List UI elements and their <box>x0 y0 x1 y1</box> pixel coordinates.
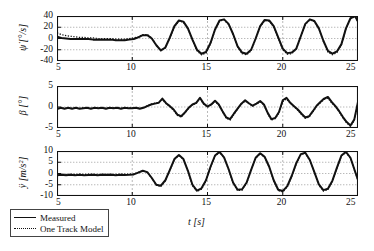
plot-panel-3 <box>57 151 358 196</box>
xtick-label-p1-1: 10 <box>126 62 136 72</box>
legend-entry-1: One Track Model <box>14 223 104 234</box>
legend-label-0: Measured <box>40 213 76 223</box>
ytick-label-p1-0: 40 <box>23 10 53 20</box>
ytick-label-p1-4: -40 <box>23 55 53 65</box>
xtick-label-p2-2: 15 <box>202 129 212 139</box>
ylabel-panel-1: ψ̇ [°/s] <box>17 15 28 59</box>
ytick-label-p3-4: -10 <box>23 190 53 200</box>
plot-panel-1 <box>57 16 358 61</box>
xtick-label-p2-4: 25 <box>346 129 356 139</box>
xtick-label-p1-2: 15 <box>202 62 212 72</box>
legend-entry-0: Measured <box>14 212 104 223</box>
plot-panel-2 <box>57 86 358 128</box>
xtick-label-p3-1: 10 <box>126 197 136 207</box>
ytick-label-p2-2: -5 <box>23 122 53 132</box>
ytick-label-p3-2: 0 <box>23 168 53 178</box>
xtick-label-p2-1: 10 <box>126 129 136 139</box>
ytick-label-p2-0: 5 <box>23 80 53 90</box>
xtick-label-p1-4: 25 <box>346 62 356 72</box>
ytick-label-p3-1: 5 <box>23 156 53 166</box>
xtick-label-p3-3: 20 <box>277 197 287 207</box>
xtick-label-p3-2: 15 <box>202 197 212 207</box>
ylabel-panel-3: ÿ [m/s²] <box>17 150 28 194</box>
xtick-label-p3-4: 25 <box>346 197 356 207</box>
legend-swatch-dotted <box>14 228 36 229</box>
legend: MeasuredOne Track Model <box>10 209 109 237</box>
xtick-label-p2-0: 5 <box>56 129 61 139</box>
ytick-label-p1-1: 20 <box>23 21 53 31</box>
xtick-label-p1-3: 20 <box>277 62 287 72</box>
ytick-label-p3-0: 10 <box>23 145 53 155</box>
legend-label-1: One Track Model <box>40 224 104 234</box>
ylabel-panel-2: β [°] <box>17 84 28 128</box>
ytick-label-p2-1: 0 <box>23 101 53 111</box>
xaxis-label: t [s] <box>188 216 205 227</box>
ytick-label-p1-3: -20 <box>23 44 53 54</box>
xtick-label-p2-3: 20 <box>277 129 287 139</box>
xtick-label-p3-0: 5 <box>56 197 61 207</box>
legend-swatch-solid <box>14 217 36 218</box>
figure-container: 40200-20-40510152025ψ̇ [°/s]50-551015202… <box>0 0 374 251</box>
ytick-label-p3-3: -5 <box>23 179 53 189</box>
xtick-label-p1-0: 5 <box>56 62 61 72</box>
ytick-label-p1-2: 0 <box>23 33 53 43</box>
